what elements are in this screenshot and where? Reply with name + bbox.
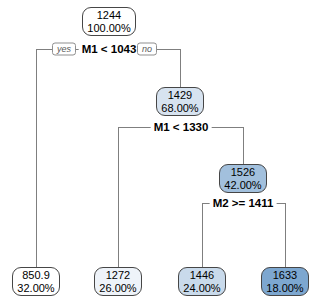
node-value: 1244: [97, 9, 121, 22]
node-percent: 26.00%: [99, 282, 136, 295]
node-value: 1272: [106, 269, 130, 282]
node-value: 1633: [273, 269, 297, 282]
tree-leaf-32pct: 850.9 32.00%: [12, 267, 60, 296]
tree-leaf-24pct: 1446 24.00%: [178, 267, 226, 296]
branch-to-leaf18: [285, 203, 286, 267]
node-percent: 24.00%: [183, 282, 220, 295]
decision-tree-plot: yes M1 < 1043 no M1 < 1330 M2 >= 1411 12…: [0, 0, 320, 307]
edge-label-yes: yes: [52, 43, 76, 56]
branch-no-to-node68: [180, 49, 181, 87]
node-percent: 18.00%: [266, 282, 303, 295]
node-value: 1446: [190, 269, 214, 282]
edge-label-no: no: [137, 43, 157, 56]
tree-leaf-18pct: 1633 18.00%: [261, 267, 309, 296]
tree-leaf-26pct: 1272 26.00%: [94, 267, 142, 296]
node-percent: 42.00%: [224, 179, 261, 192]
node-value: 1526: [231, 166, 255, 179]
node-percent: 68.00%: [161, 102, 198, 115]
tree-node-42pct: 1526 42.00%: [219, 164, 267, 193]
node-percent: 100.00%: [87, 22, 130, 35]
node-percent: 32.00%: [17, 282, 54, 295]
branch-to-node42: [243, 127, 244, 164]
split-label-1: M1 < 1043: [79, 43, 140, 55]
node-value: 1429: [168, 89, 192, 102]
split-label-2: M1 < 1330: [151, 121, 212, 133]
branch-to-leaf24: [202, 203, 203, 267]
node-value: 850.9: [22, 269, 50, 282]
branch-to-leaf26: [118, 127, 119, 267]
branch-yes-to-leaf32: [36, 49, 37, 267]
tree-node-root: 1244 100.00%: [82, 7, 136, 36]
tree-node-68pct: 1429 68.00%: [156, 87, 204, 116]
split-label-3: M2 >= 1411: [210, 197, 277, 209]
